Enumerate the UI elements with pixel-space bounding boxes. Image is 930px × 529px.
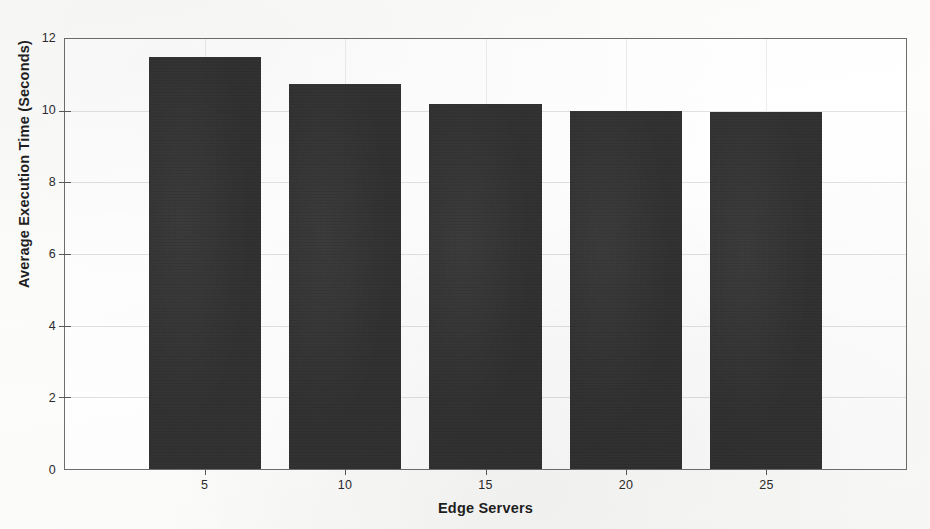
x-axis-tick (486, 469, 487, 475)
x-axis-tick (205, 469, 206, 475)
x-axis-title: Edge Servers (64, 500, 907, 516)
y-tick-label: 12 (42, 31, 56, 45)
figure-container: Average Execution Time (Seconds) 0 2 4 6… (0, 0, 930, 529)
y-axis-tick (65, 254, 71, 255)
plot-area (64, 38, 907, 470)
y-tick-label: 6 (49, 247, 56, 261)
y-axis-tick (65, 111, 71, 112)
y-tick-label: 8 (49, 175, 56, 189)
bar (570, 111, 682, 469)
x-tick-label: 20 (619, 478, 633, 492)
y-axis-tick (65, 326, 71, 327)
x-axis-tick-labels: 5 10 15 20 25 (64, 478, 907, 496)
y-axis-tick-labels: 0 2 4 6 8 10 12 (28, 38, 56, 470)
y-tick-label: 4 (49, 319, 56, 333)
bar (149, 57, 261, 469)
x-axis-tick (345, 469, 346, 475)
bar (429, 104, 541, 470)
x-tick-label: 25 (759, 478, 773, 492)
y-axis-tick (65, 397, 71, 398)
x-tick-label: 15 (478, 478, 492, 492)
x-tick-label: 5 (201, 478, 208, 492)
x-tick-label: 10 (338, 478, 352, 492)
bar (289, 84, 401, 469)
y-axis-title: Average Execution Time (Seconds) (16, 0, 32, 374)
y-axis-tick (65, 182, 71, 183)
bar (710, 112, 822, 469)
x-axis-tick (626, 469, 627, 475)
y-tick-label: 2 (49, 391, 56, 405)
y-tick-label: 0 (49, 463, 56, 477)
y-tick-label: 10 (42, 103, 56, 117)
x-axis-tick (766, 469, 767, 475)
